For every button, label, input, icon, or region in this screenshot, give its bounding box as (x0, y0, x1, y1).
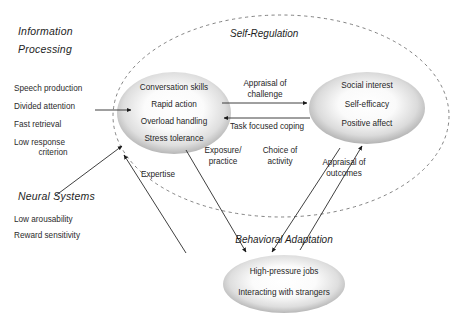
information-processing-heading-line2: Processing (18, 44, 72, 55)
information-processing-heading-line1: Information (18, 26, 73, 37)
behavior-item-high-pressure-jobs: High-pressure jobs (224, 266, 344, 277)
self-regulation-label: Self-Regulation (230, 28, 298, 39)
neural-item-low-arousability: Low arousability (14, 214, 73, 225)
capability-item-conversation-skills: Conversation skills (119, 82, 229, 93)
appraisal-item-self-efficacy: Self-efficacy (312, 99, 422, 110)
neural-systems-heading: Neural Systems (18, 191, 95, 202)
appraisal-item-social-interest: Social interest (312, 80, 422, 91)
info-item-fast-retrieval: Fast retrieval (14, 119, 61, 130)
label-expertise: Expertise (129, 170, 187, 181)
behavior-node-shape (223, 255, 345, 313)
label-choice-of-activity-line1: Choice of (253, 146, 307, 157)
capability-item-overload-handling: Overload handling (119, 116, 229, 127)
capability-item-rapid-action: Rapid action (119, 99, 229, 110)
label-appraisal-of-challenge-line2: challenge (229, 90, 301, 101)
label-appraisal-of-outcomes-line2: outcomes (312, 169, 376, 180)
behavior-item-interacting-with-strangers: Interacting with strangers (214, 287, 354, 298)
neural-item-reward-sensitivity: Reward sensitivity (14, 230, 80, 241)
label-exposure-practice-line2: practice (196, 157, 250, 168)
label-task-focused-coping: Task focused coping (227, 122, 307, 133)
appraisal-item-positive-affect: Positive affect (312, 118, 422, 129)
label-choice-of-activity-line2: activity (253, 157, 307, 168)
info-item-divided-attention: Divided attention (14, 101, 75, 112)
behavioral-adaptation-title: Behavioral Adaptation (214, 234, 354, 245)
info-item-low-response-criterion-line2: criterion (14, 147, 92, 158)
capability-item-stress-tolerance: Stress tolerance (119, 133, 229, 144)
label-appraisal-of-outcomes-line1: Appraisal of (312, 158, 376, 169)
info-item-speech-production: Speech production (14, 83, 82, 94)
diagram-canvas: Information Processing Speech production… (0, 0, 456, 330)
label-exposure-practice-line1: Exposure/ (196, 146, 250, 157)
label-appraisal-of-challenge-line1: Appraisal of (229, 79, 301, 90)
